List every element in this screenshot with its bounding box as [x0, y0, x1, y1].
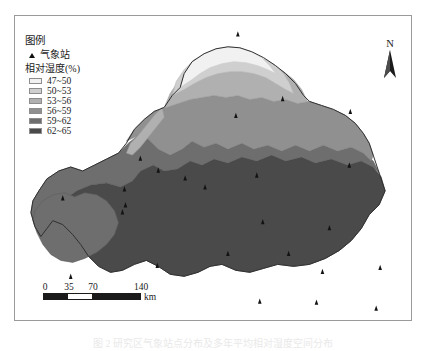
- scale-bar-unit: km: [144, 292, 156, 302]
- scale-segment: [44, 294, 68, 299]
- scale-bar-segments: [43, 293, 141, 300]
- figure-root: 图例 气象站 相对湿度(%) 47~50 50~53 53~56: [0, 0, 426, 351]
- legend-class-row: 62~65: [25, 126, 129, 136]
- map-frame: 图例 气象站 相对湿度(%) 47~50 50~53 53~56: [14, 15, 412, 321]
- triangle-marker-icon: [29, 53, 35, 58]
- legend: 图例 气象站 相对湿度(%) 47~50 50~53 53~56: [25, 34, 129, 136]
- legend-class-list: 47~50 50~53 53~56 56~59 59~62: [25, 76, 129, 136]
- legend-swatch: [29, 98, 42, 105]
- legend-class-row: 53~56: [25, 96, 129, 106]
- scale-bar: 0 35 70 140 km: [43, 281, 155, 300]
- legend-variable-label: 相对湿度(%): [25, 62, 129, 75]
- legend-swatch: [29, 118, 42, 125]
- scale-tick: 0: [43, 281, 48, 293]
- legend-class-label: 56~59: [47, 106, 71, 116]
- legend-class-row: 47~50: [25, 76, 129, 86]
- legend-class-label: 53~56: [47, 96, 71, 106]
- legend-station-entry: 气象站: [25, 49, 129, 61]
- north-arrow-label: N: [379, 38, 401, 49]
- scale-segment: [92, 294, 140, 299]
- legend-swatch: [29, 108, 42, 115]
- scale-tick: 35: [64, 281, 74, 293]
- legend-swatch: [29, 128, 42, 135]
- scale-bar-tick-labels: 0 35 70 140: [43, 281, 155, 293]
- legend-class-label: 59~62: [47, 116, 71, 126]
- legend-class-row: 59~62: [25, 116, 129, 126]
- scale-bar-graphic: km: [43, 293, 155, 300]
- legend-class-row: 50~53: [25, 86, 129, 96]
- legend-class-label: 47~50: [47, 76, 71, 86]
- legend-swatch: [29, 78, 42, 85]
- scale-tick: 70: [88, 281, 98, 293]
- scale-segment: [68, 294, 92, 299]
- legend-station-label: 气象站: [40, 49, 70, 61]
- legend-class-label: 50~53: [47, 86, 71, 96]
- legend-swatch: [29, 88, 42, 95]
- legend-class-row: 56~59: [25, 106, 129, 116]
- figure-caption: 图 2 研究区气象站点分布及多年平均相对湿度空间分布: [0, 337, 426, 350]
- north-arrow: N: [379, 38, 401, 80]
- legend-class-label: 62~65: [47, 126, 71, 136]
- north-arrow-icon: [380, 49, 400, 79]
- legend-title: 图例: [25, 34, 129, 47]
